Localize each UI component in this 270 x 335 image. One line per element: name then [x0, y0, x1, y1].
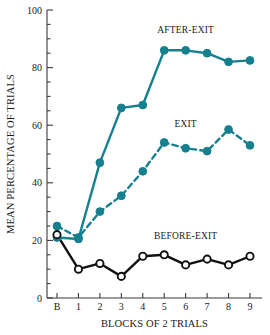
data-point-marker — [75, 266, 82, 273]
data-point-marker — [53, 222, 61, 230]
data-point-marker — [139, 253, 146, 260]
y-axis-tick-label: 20 — [32, 235, 42, 246]
data-point-marker — [203, 49, 211, 57]
series-label-before-exit: BEFORE-EXIT — [154, 231, 217, 241]
data-point-marker — [246, 57, 254, 65]
x-axis-title: BLOCKS OF 2 TRIALS — [101, 318, 208, 329]
y-axis-tick-label: 40 — [32, 177, 42, 188]
data-point-marker — [160, 46, 168, 54]
x-axis-tick-label: 3 — [119, 301, 124, 312]
y-axis-ticks — [47, 10, 53, 298]
y-axis-tick-label: 0 — [37, 293, 42, 304]
data-point-marker — [225, 261, 232, 268]
x-axis-tick-label: B — [54, 301, 61, 312]
data-point-marker — [160, 139, 168, 147]
data-point-marker — [204, 256, 211, 263]
data-point-marker — [139, 101, 147, 109]
data-point-marker — [161, 251, 168, 258]
data-point-marker — [118, 273, 125, 280]
data-point-marker — [225, 126, 233, 134]
data-point-marker — [139, 167, 147, 175]
series-label-after-exit: AFTER-EXIT — [157, 25, 214, 35]
series-line — [57, 130, 250, 238]
data-point-marker — [117, 192, 125, 200]
series-label-exit: EXIT — [174, 119, 196, 129]
x-axis-tick-label: 1 — [76, 301, 81, 312]
series-markers-group — [53, 46, 254, 280]
line-chart: 020406080100 B123456789 AFTER-EXITEXITBE… — [0, 0, 270, 335]
data-point-marker — [53, 231, 60, 238]
y-axis-tick-label: 100 — [27, 5, 42, 16]
data-point-marker — [75, 234, 83, 242]
x-axis-tick-label: 8 — [226, 301, 231, 312]
data-point-marker — [246, 141, 254, 149]
x-axis-ticks — [57, 293, 250, 298]
data-point-marker — [96, 159, 104, 167]
data-point-marker — [182, 46, 190, 54]
y-axis-tick-label: 60 — [32, 120, 42, 131]
y-axis-tick-label: 80 — [32, 62, 42, 73]
data-point-marker — [117, 104, 125, 112]
x-axis-tick-label: 5 — [162, 301, 167, 312]
x-axis-tick-label: 6 — [183, 301, 188, 312]
data-point-marker — [182, 144, 190, 152]
y-axis-title: MEAN PERCENTAGE OF TRIALS — [5, 74, 16, 234]
series-line — [57, 50, 250, 239]
data-point-marker — [203, 147, 211, 155]
data-point-marker — [96, 260, 103, 267]
y-axis-tick-labels: 020406080100 — [27, 5, 42, 304]
data-point-marker — [246, 253, 253, 260]
x-axis-tick-label: 4 — [140, 301, 145, 312]
chart-container: 020406080100 B123456789 AFTER-EXITEXITBE… — [0, 0, 270, 335]
data-point-marker — [182, 261, 189, 268]
x-axis-tick-label: 9 — [248, 301, 253, 312]
x-axis-tick-label: 7 — [205, 301, 210, 312]
series-lines-group — [57, 50, 250, 276]
data-point-marker — [225, 58, 233, 66]
x-axis-tick-label: 2 — [97, 301, 102, 312]
x-axis-tick-labels: B123456789 — [54, 301, 253, 312]
data-point-marker — [96, 208, 104, 216]
